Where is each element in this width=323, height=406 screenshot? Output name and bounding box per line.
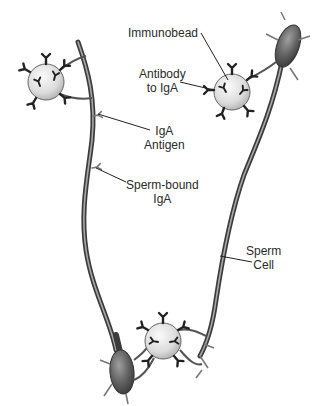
sperm-tail-left xyxy=(78,42,116,350)
immunobead-right xyxy=(204,64,257,119)
label-iga-antigen: IgA Antigen xyxy=(144,124,185,152)
immunobead-left xyxy=(19,54,92,109)
label-sperm-cell: Sperm Cell xyxy=(246,244,281,272)
label-immunobead: Immunobead xyxy=(128,26,198,40)
label-antibody-to-iga: Antibody to IgA xyxy=(139,67,186,95)
label-sperm-bound-iga: Sperm-bound IgA xyxy=(126,178,199,206)
